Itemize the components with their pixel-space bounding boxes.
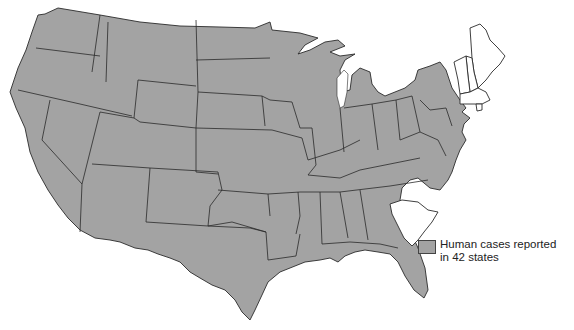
- state-rhode-island: [476, 104, 482, 111]
- legend-line-2: in 42 states: [440, 251, 556, 264]
- reported-states: [10, 8, 470, 320]
- us-map: [0, 0, 574, 330]
- us-landmass: [10, 8, 470, 320]
- legend: Human cases reported in 42 states: [418, 238, 556, 264]
- legend-swatch: [418, 240, 436, 254]
- legend-line-1: Human cases reported: [440, 238, 556, 251]
- legend-text: Human cases reported in 42 states: [440, 238, 556, 264]
